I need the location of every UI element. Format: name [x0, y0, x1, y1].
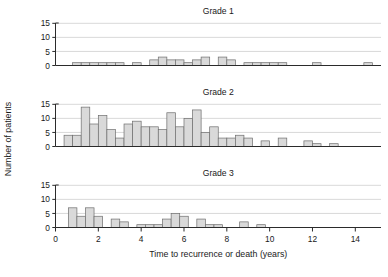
- bar: [68, 208, 77, 228]
- bar: [218, 138, 227, 146]
- y-tick-label: 15: [41, 99, 51, 109]
- panel-title-3: Grade 3: [203, 168, 234, 178]
- histogram-figure: Number of patientsGrade 1051015Grade 205…: [0, 0, 388, 277]
- bar: [158, 130, 167, 147]
- x-tick-label: 6: [182, 234, 187, 244]
- bar: [163, 219, 172, 227]
- y-tick-label: 0: [45, 61, 50, 71]
- bar: [133, 121, 142, 146]
- bar: [111, 219, 120, 227]
- bar: [227, 60, 236, 66]
- y-tick-label: 5: [45, 128, 50, 138]
- bar: [244, 138, 253, 146]
- panel-title-2: Grade 2: [203, 87, 234, 97]
- bar: [124, 124, 133, 147]
- bar: [304, 141, 313, 147]
- y-tick-label: 5: [45, 47, 50, 57]
- y-tick-label: 10: [41, 113, 51, 123]
- bar: [197, 219, 206, 227]
- bar: [167, 60, 176, 66]
- bar: [85, 208, 94, 228]
- y-tick-label: 0: [45, 223, 50, 233]
- bar: [150, 127, 159, 147]
- y-tick-label: 10: [41, 194, 51, 204]
- bar: [98, 116, 107, 147]
- y-tick-label: 15: [41, 18, 51, 28]
- panel-2: Grade 2051015: [41, 87, 381, 152]
- bar: [278, 138, 287, 146]
- bar: [175, 60, 184, 66]
- bar: [94, 216, 103, 227]
- bar: [158, 57, 167, 65]
- bar: [227, 138, 236, 146]
- bar: [201, 132, 210, 146]
- bar: [180, 216, 189, 227]
- y-tick-label: 10: [41, 32, 51, 42]
- bar: [218, 57, 227, 65]
- y-tick-label: 5: [45, 209, 50, 219]
- bar: [201, 57, 210, 65]
- bar: [120, 222, 129, 228]
- x-tick-label: 0: [53, 234, 58, 244]
- x-tick-label: 10: [265, 234, 275, 244]
- bar: [175, 127, 184, 147]
- bar: [77, 216, 86, 227]
- bar: [171, 213, 180, 227]
- bar: [115, 138, 124, 146]
- bar: [184, 118, 193, 146]
- bar: [210, 127, 219, 147]
- bar: [107, 130, 116, 147]
- x-tick-label: 2: [96, 234, 101, 244]
- bar: [193, 60, 202, 66]
- bar: [141, 127, 150, 147]
- panel-1: Grade 1051015: [41, 6, 381, 71]
- x-tick-label: 4: [139, 234, 144, 244]
- x-tick-label: 8: [224, 234, 229, 244]
- x-axis-title: Time to recurrence or death (years): [149, 249, 287, 259]
- y-tick-label: 15: [41, 180, 51, 190]
- panel-3: Grade 305101502468101214Time to recurren…: [41, 168, 381, 259]
- bar: [81, 107, 90, 146]
- x-tick-label: 14: [351, 234, 361, 244]
- bar: [193, 110, 202, 147]
- panel-title-1: Grade 1: [203, 6, 234, 16]
- bar: [73, 135, 82, 146]
- x-tick-label: 12: [308, 234, 318, 244]
- bar: [150, 60, 159, 66]
- y-axis-title: Number of patients: [3, 101, 13, 176]
- chart-svg: Number of patientsGrade 1051015Grade 205…: [0, 0, 388, 277]
- y-tick-label: 0: [45, 142, 50, 152]
- bar: [64, 135, 73, 146]
- bar: [90, 124, 99, 147]
- bar: [167, 113, 176, 147]
- bar: [261, 141, 270, 147]
- bar: [240, 222, 249, 228]
- bar: [235, 135, 244, 146]
